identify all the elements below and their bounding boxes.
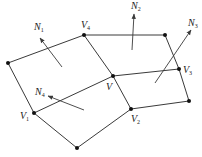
vertex-dot-v3 xyxy=(177,67,181,71)
edge-v4-v xyxy=(84,35,113,76)
edge-p_right-v2 xyxy=(131,101,189,109)
normal-arrow-icon-n2 xyxy=(132,14,134,50)
vertex-dot-v2 xyxy=(129,107,133,111)
edge-p_bottom-v1 xyxy=(34,113,77,148)
edge-v-v2 xyxy=(113,76,131,109)
face-normals xyxy=(40,14,191,110)
vertex-dot-p_top xyxy=(163,33,167,37)
edge-v1-p_left xyxy=(8,63,34,113)
edge-p_left-v4 xyxy=(8,35,84,63)
labels: N1N2N3N4VV1V2V3V4 xyxy=(20,0,198,125)
edge-v2-p_bottom xyxy=(77,109,131,148)
vertex-dot-p_left xyxy=(6,61,10,65)
normal-label-n4: N4 xyxy=(34,86,45,98)
vertex-label-v1: V1 xyxy=(20,110,29,122)
edge-p_top-v3 xyxy=(165,35,179,69)
vertex-label-v: V xyxy=(106,81,114,92)
vertex-dot-v1 xyxy=(32,111,36,115)
vertex-label-v2: V2 xyxy=(131,113,140,125)
normal-arrow-icon-n1 xyxy=(40,38,62,67)
vertex-label-v4: V4 xyxy=(81,19,90,31)
vertex-dot-p_right xyxy=(187,99,191,103)
normal-arrow-icon-n3 xyxy=(155,30,191,83)
vertex-dot-v xyxy=(111,74,115,78)
vertex-dot-p_bottom xyxy=(75,146,79,150)
vertex-dot-v4 xyxy=(82,33,86,37)
normal-label-n2: N2 xyxy=(130,0,141,12)
normal-label-n1: N1 xyxy=(33,21,44,33)
vertex-label-v3: V3 xyxy=(183,64,192,76)
normal-label-n3: N3 xyxy=(187,17,198,29)
mesh-normal-diagram: N1N2N3N4VV1V2V3V4 xyxy=(0,0,202,157)
edge-v1-v xyxy=(34,76,113,113)
edge-v-v3 xyxy=(113,69,179,76)
